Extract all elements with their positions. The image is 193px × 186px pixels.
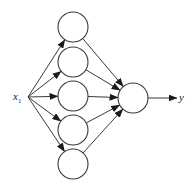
edge-x1-to-h3 xyxy=(28,96,58,97)
edge-h5-to-out xyxy=(83,109,123,153)
edge-h2-to-out xyxy=(86,70,120,91)
hidden-node-2 xyxy=(58,47,88,77)
output-node xyxy=(118,83,148,113)
edge-x1-to-h4 xyxy=(28,97,61,121)
hidden-node-5 xyxy=(58,149,88,179)
edge-h4-to-out xyxy=(86,105,120,123)
edge-h1-to-out xyxy=(83,38,124,86)
neural-network-diagram: x1 y xyxy=(0,0,193,186)
input-label-x1: x1 xyxy=(12,90,22,105)
hidden-node-1 xyxy=(58,12,88,42)
edge-x1-to-h2 xyxy=(28,71,61,97)
edges xyxy=(28,38,177,152)
hidden-node-4 xyxy=(58,115,88,145)
output-label-y: y xyxy=(178,91,184,103)
nodes xyxy=(58,12,148,179)
hidden-node-3 xyxy=(58,81,88,111)
input-label-subscript: 1 xyxy=(18,97,22,105)
edge-h3-to-out xyxy=(88,96,118,97)
